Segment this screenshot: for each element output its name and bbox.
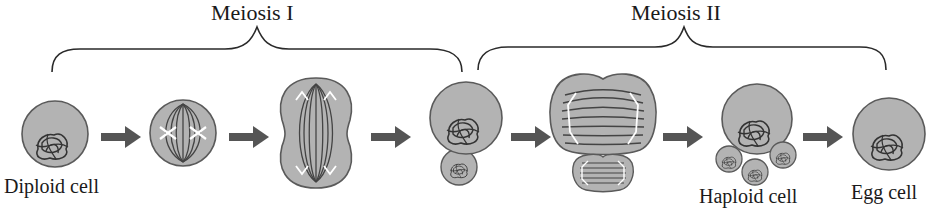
cell-anaphase-1 bbox=[281, 78, 352, 188]
arrow-icon bbox=[101, 126, 141, 148]
arrow-icon bbox=[371, 126, 411, 148]
cell-meiosis-2-division bbox=[550, 74, 656, 192]
arrow-icon bbox=[511, 126, 551, 148]
cell-egg bbox=[853, 98, 925, 170]
brace-meiosis-1 bbox=[52, 27, 462, 72]
cell-metaphase-1 bbox=[150, 100, 216, 166]
phase-label-meiosis-2: Meiosis II bbox=[631, 0, 721, 26]
arrow-icon bbox=[229, 126, 269, 148]
label-egg-cell: Egg cell bbox=[851, 181, 917, 204]
brace-meiosis-2 bbox=[478, 27, 886, 70]
phase-label-meiosis-1: Meiosis I bbox=[211, 0, 294, 26]
label-haploid-cell: Haploid cell bbox=[699, 185, 797, 208]
label-diploid-cell: Diploid cell bbox=[4, 175, 99, 198]
arrow-icon bbox=[803, 126, 843, 148]
meiosis-diagram: Meiosis I Meiosis II Diploid cell Haploi… bbox=[0, 0, 928, 217]
arrow-icon bbox=[663, 126, 703, 148]
cell-haploid bbox=[716, 84, 796, 185]
cell-secondary-oocyte bbox=[430, 82, 502, 185]
cell-diploid bbox=[22, 101, 88, 167]
